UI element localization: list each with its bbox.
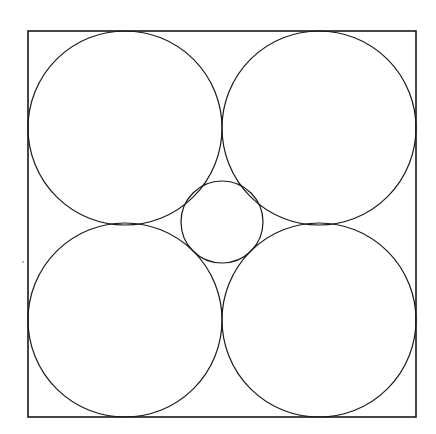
center-circle (181, 181, 263, 263)
large-circle-bottom-left (28, 223, 222, 417)
outer-square (28, 31, 416, 417)
large-circle-top-right (222, 31, 416, 225)
large-circle-bottom-right (222, 223, 416, 417)
diagram-canvas (0, 0, 436, 434)
large-circle-top-left (28, 31, 222, 225)
stray-dot (22, 261, 24, 263)
